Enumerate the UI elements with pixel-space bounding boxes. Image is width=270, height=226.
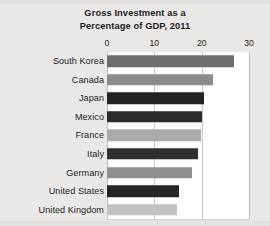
chart-title-line-1: Gross Investment as a xyxy=(0,7,270,20)
x-tick-label-0: 0 xyxy=(105,38,110,48)
bar-south-korea xyxy=(107,55,234,67)
bar-row: South Korea xyxy=(0,52,270,70)
bar-row: United Kingdom xyxy=(0,200,270,218)
chart-title: Gross Investment as a Percentage of GDP,… xyxy=(0,7,270,32)
category-label-united-kingdom: United Kingdom xyxy=(39,205,104,215)
category-label-south-korea: South Korea xyxy=(53,56,104,66)
bar-row: United States xyxy=(0,182,270,200)
bar-canada xyxy=(107,74,213,86)
page-edge-bottom xyxy=(0,221,270,226)
category-label-canada: Canada xyxy=(72,75,104,85)
bar-row: France xyxy=(0,126,270,144)
category-label-france: France xyxy=(75,130,104,140)
chart-title-line-2: Percentage of GDP, 2011 xyxy=(0,20,270,33)
bar-row: Italy xyxy=(0,145,270,163)
bar-france xyxy=(107,130,201,142)
bar-row: Mexico xyxy=(0,108,270,126)
category-label-germany: Germany xyxy=(66,168,104,178)
bar-row: Japan xyxy=(0,89,270,107)
category-label-mexico: Mexico xyxy=(75,112,104,122)
category-label-japan: Japan xyxy=(79,93,104,103)
category-label-italy: Italy xyxy=(87,149,104,159)
bar-united-states xyxy=(107,185,179,197)
chart-figure: Gross Investment as a Percentage of GDP,… xyxy=(0,0,270,226)
plot-baseline xyxy=(107,219,250,220)
x-tick-label-30: 30 xyxy=(244,38,254,48)
x-tick-label-10: 10 xyxy=(150,38,160,48)
bar-row: Germany xyxy=(0,163,270,181)
bar-mexico xyxy=(107,111,202,123)
category-label-united-states: United States xyxy=(49,186,104,196)
bar-united-kingdom xyxy=(107,204,177,216)
bar-row: Canada xyxy=(0,71,270,89)
x-tick-label-20: 20 xyxy=(197,38,207,48)
bar-rows: South KoreaCanadaJapanMexicoFranceItalyG… xyxy=(0,52,270,219)
bar-italy xyxy=(107,148,198,160)
bar-germany xyxy=(107,167,192,179)
page-edge-top xyxy=(0,0,270,4)
bar-japan xyxy=(107,93,204,105)
